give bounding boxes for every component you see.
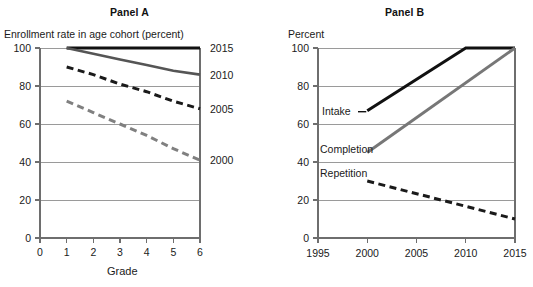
panel-a-xtick-label: 3 (117, 246, 123, 258)
panel-b-y-axis-caption: Percent (288, 28, 324, 40)
panel-b-xtick-label: 2005 (405, 247, 429, 259)
panel-a-ytick-label: 0 (25, 232, 31, 244)
panel-a-y-axis-caption: Enrollment rate in age cohort (percent) (4, 28, 184, 40)
panel-b-ytick-label: 80 (297, 80, 309, 92)
panel-a-xtick-label: 2 (90, 246, 96, 258)
panel-a-xtick-labels: 0123456 (37, 246, 203, 258)
panel-b-xtick-labels: 19952000200520102015 (306, 247, 527, 259)
panel-b-ytick-label: 60 (297, 118, 309, 130)
panel-a-series-labels: 2015201020052000 (210, 42, 234, 166)
panel-a-series-line-2000 (67, 101, 200, 160)
panel-a-plot-area: 020406080100 0123456 2015201020052000 (0, 40, 270, 270)
panel-a-xtick-label: 4 (144, 246, 150, 258)
figure-two-panel-chart: Panel A Enrollment rate in age cohort (p… (0, 0, 533, 287)
panel-a-xtick-label: 6 (197, 246, 203, 258)
panel-b-ytick-label: 0 (303, 232, 309, 244)
panel-b-ytick-labels: 020406080100 (291, 42, 309, 244)
panel-a-ytick-labels: 020406080100 (13, 42, 31, 244)
panel-a-series-label-2005: 2005 (210, 103, 234, 115)
panel-b-xtick-label: 2015 (503, 247, 527, 259)
panel-a-ytick-label: 60 (19, 118, 31, 130)
panel-a-xtick-label: 1 (64, 246, 70, 258)
panel-b-xtick-label: 2010 (454, 247, 478, 259)
panel-b-ytick-label: 40 (297, 156, 309, 168)
panel-a-series-label-2000: 2000 (210, 154, 234, 166)
panel-a-series-line-2005 (67, 67, 200, 109)
clipped-header-text (52, 0, 172, 4)
panel-a-ytick-label: 20 (19, 194, 31, 206)
panel-a-series-line-2010 (67, 48, 200, 75)
panel-b-series (367, 48, 515, 219)
panel-a-ytick-label: 80 (19, 80, 31, 92)
panel-b-plot-area: 020406080100 19952000200520102015 Intake… (270, 40, 533, 270)
panel-a-ytick-label: 100 (13, 42, 31, 54)
panel-a-ytick-label: 40 (19, 156, 31, 168)
panel-b-series-label-Completion: Completion (320, 143, 373, 155)
panel-a-axes (35, 48, 200, 243)
panel-a-title: Panel A (110, 6, 149, 18)
panel-b-ytick-label: 20 (297, 194, 309, 206)
panel-b-series-label-Intake: Intake (322, 105, 351, 117)
panel-a-series (67, 48, 200, 160)
panel-b-title: Panel B (385, 6, 424, 18)
panel-b-xtick-label: 2000 (356, 247, 380, 259)
panel-b-series-labels: IntakeCompletionRepetition (320, 105, 373, 180)
panel-b-series-label-Repetition: Repetition (320, 167, 367, 179)
panel-b-ytick-label: 100 (291, 42, 309, 54)
panel-a-xtick-label: 5 (170, 246, 176, 258)
panel-a-series-label-2015: 2015 (210, 42, 234, 54)
panel-a-series-label-2010: 2010 (210, 69, 234, 81)
panel-a-gridlines (40, 48, 200, 238)
panel-a-xtick-label: 0 (37, 246, 43, 258)
panel-b-xtick-label: 1995 (306, 247, 330, 259)
